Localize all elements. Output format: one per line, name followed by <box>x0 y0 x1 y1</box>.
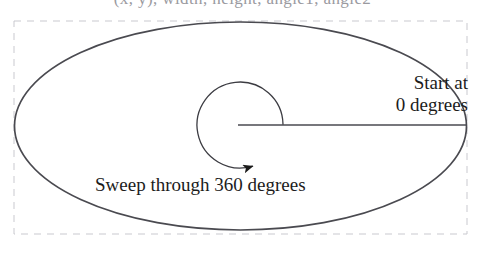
start-angle-label-line1: Start at <box>414 72 468 93</box>
ellipse-arc-diagram: (x, y), width, height, angle1, angle2 St… <box>0 0 485 257</box>
diagram-canvas <box>0 0 485 257</box>
start-angle-label: Start at 0 degrees <box>396 72 468 117</box>
dashed-bounding-box <box>14 21 467 234</box>
outer-ellipse <box>15 22 467 230</box>
sweep-angle-label: Sweep through 360 degrees <box>95 174 306 196</box>
start-angle-label-line2: 0 degrees <box>396 94 468 116</box>
